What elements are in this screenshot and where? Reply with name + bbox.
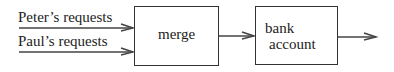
peter-requests-label: Peter’s requests xyxy=(18,9,112,25)
bank-account-node: bank account xyxy=(255,6,338,65)
account-label: account xyxy=(269,36,316,52)
merge-node: merge xyxy=(134,6,219,66)
paul-requests-label: Paul’s requests xyxy=(18,33,108,49)
bank-label: bank xyxy=(265,20,294,36)
merge-label: merge xyxy=(158,26,195,42)
